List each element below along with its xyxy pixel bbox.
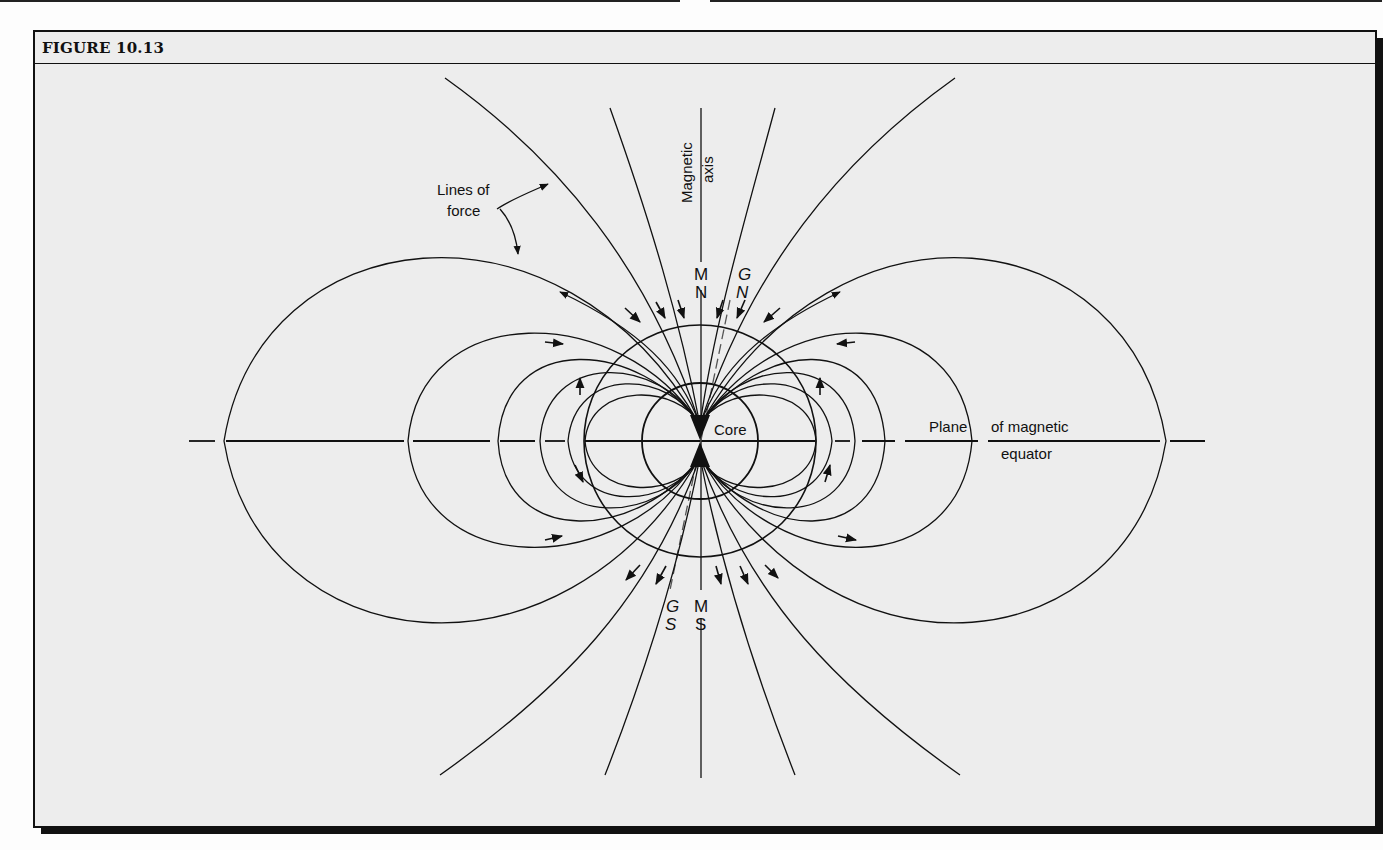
label-lines-of-force-1: Lines of [437, 181, 490, 198]
label-geographic-north-n: N [736, 283, 749, 302]
label-geographic-north-g: G [738, 265, 751, 284]
label-equator-plane: Plane [929, 418, 967, 435]
label-magnetic-south-s: S [695, 615, 706, 634]
label-equator-of-magnetic: of magnetic [991, 418, 1069, 435]
open-field-lines-north [445, 78, 955, 425]
label-equator-equator: equator [1001, 445, 1052, 462]
label-magnetic-axis-1: Magnetic [678, 142, 695, 203]
label-magnetic-north-n: N [695, 283, 707, 302]
label-geographic-south-g: G [666, 597, 679, 616]
lines-of-force-callout-arrows [497, 184, 548, 254]
diagram-labels: Lines of force Magnetic axis M N G N M S… [437, 142, 1069, 634]
label-magnetic-axis-2: axis [699, 156, 716, 183]
label-lines-of-force-2: force [447, 202, 480, 219]
label-geographic-south-s: S [665, 615, 677, 634]
label-magnetic-south-m: M [694, 597, 708, 616]
label-magnetic-north-m: M [694, 265, 708, 284]
label-core: Core [714, 421, 747, 438]
